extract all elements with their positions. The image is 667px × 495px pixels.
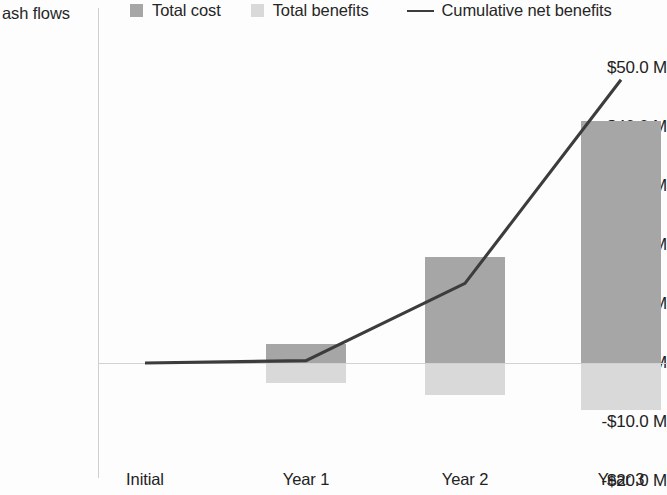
bar-total-benefits: [266, 363, 346, 383]
cash-flow-chart: ash flows Total cost Total benefits Cumu…: [0, 0, 667, 495]
x-tick-label: Year 2: [442, 470, 489, 489]
y-axis-line: [98, 8, 99, 478]
y-tick-label: $50.0 M: [575, 58, 667, 78]
bar-total-benefits: [425, 363, 505, 395]
plot-area: $50.0 M$40.0 M$30.0 M$20.0 M$10.0 M$0 M-…: [0, 0, 667, 495]
x-tick-label: Year 3: [598, 470, 645, 489]
bar-total-cost: [581, 121, 661, 363]
bar-total-benefits: [581, 363, 661, 410]
x-tick-label: Initial: [126, 470, 164, 489]
cumulative-net-benefits-polyline: [145, 80, 621, 363]
zero-baseline: [98, 363, 667, 364]
bar-total-cost: [266, 344, 346, 363]
cumulative-line-series: [0, 0, 667, 495]
y-tick-label: -$10.0 M: [575, 412, 667, 432]
bar-total-cost: [425, 257, 505, 363]
x-tick-label: Year 1: [283, 470, 330, 489]
